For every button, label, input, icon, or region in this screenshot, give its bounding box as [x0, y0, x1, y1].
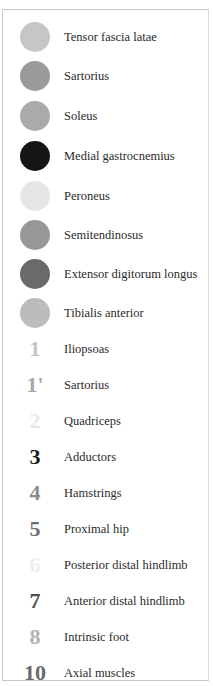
legend-item-anterior-distal-hindlimb: 7 Anterior distal hindlimb [3, 583, 208, 619]
legend-item-soleus: Soleus [3, 98, 208, 134]
legend-label: Iliopsoas [64, 331, 109, 367]
color-swatch-circle-icon [20, 220, 50, 250]
legend-label: Semitendinosus [64, 217, 143, 253]
legend-item-axial-muscles: 10 Axial muscles [3, 655, 208, 686]
legend-label: Adductors [64, 439, 116, 475]
legend-item-hamstrings: 4 Hamstrings [3, 475, 208, 511]
legend-label: Peroneus [64, 178, 110, 214]
legend-item-tensor-fascia-latae: Tensor fascia latae [3, 19, 208, 55]
region-number: 1 [17, 331, 53, 367]
legend-label: Tensor fascia latae [64, 19, 157, 55]
legend-label: Quadriceps [64, 403, 121, 439]
color-swatch-circle-icon [20, 61, 50, 91]
region-number: 10 [17, 655, 53, 686]
legend-item-sartorius: Sartorius [3, 58, 208, 94]
color-swatch-circle-icon [20, 22, 50, 52]
legend-item-intrinsic-foot: 8 Intrinsic foot [3, 619, 208, 655]
region-number: 6 [17, 547, 53, 583]
legend-label: Posterior distal hindlimb [64, 547, 188, 583]
color-swatch-circle-icon [20, 298, 50, 328]
region-number: 7 [17, 583, 53, 619]
legend-item-tibialis-anterior: Tibialis anterior [3, 295, 208, 331]
region-number: 5 [17, 511, 53, 547]
legend-item-semitendinosus: Semitendinosus [3, 217, 208, 253]
color-swatch-circle-icon [20, 141, 50, 171]
legend-item-iliopsoas: 1 Iliopsoas [3, 331, 208, 367]
legend-label: Sartorius [64, 58, 109, 94]
legend-label: Soleus [64, 98, 97, 134]
legend-item-quadriceps: 2 Quadriceps [3, 403, 208, 439]
region-number: 1' [17, 367, 53, 403]
legend-label: Proximal hip [64, 511, 129, 547]
region-number: 4 [17, 475, 53, 511]
legend-label: Tibialis anterior [64, 295, 144, 331]
legend-item-extensor-digitorum-longus: Extensor digitorum longus [3, 256, 208, 292]
color-swatch-circle-icon [20, 181, 50, 211]
legend-item-peroneus: Peroneus [3, 178, 208, 214]
muscle-legend: Tensor fascia latae Sartorius Soleus Med… [2, 9, 209, 681]
legend-item-sartorius-prime: 1' Sartorius [3, 367, 208, 403]
region-number: 2 [17, 403, 53, 439]
legend-label: Hamstrings [64, 475, 122, 511]
color-swatch-circle-icon [20, 101, 50, 131]
legend-item-posterior-distal-hindlimb: 6 Posterior distal hindlimb [3, 547, 208, 583]
legend-label: Anterior distal hindlimb [64, 583, 185, 619]
legend-label: Intrinsic foot [64, 619, 129, 655]
legend-label: Axial muscles [64, 655, 135, 686]
legend-label: Sartorius [64, 367, 109, 403]
legend-item-medial-gastrocnemius: Medial gastrocnemius [3, 138, 208, 174]
legend-item-adductors: 3 Adductors [3, 439, 208, 475]
region-number: 8 [17, 619, 53, 655]
legend-label: Extensor digitorum longus [64, 256, 197, 292]
region-number: 3 [17, 439, 53, 475]
color-swatch-circle-icon [20, 259, 50, 289]
legend-item-proximal-hip: 5 Proximal hip [3, 511, 208, 547]
legend-label: Medial gastrocnemius [64, 138, 175, 174]
